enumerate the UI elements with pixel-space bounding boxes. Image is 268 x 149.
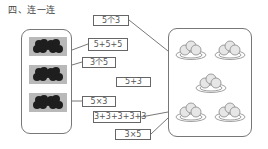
- grapes-icon: [29, 65, 67, 84]
- expression-box-3-plus-x5[interactable]: 3+3+3+3+3: [93, 111, 141, 123]
- line-e7-to-right: [151, 118, 168, 134]
- expression-box-5-plus-5-plus-5[interactable]: 5+5+5: [88, 38, 128, 51]
- bun-plate-icon: [213, 39, 247, 61]
- grapes-panel[interactable]: [21, 29, 72, 134]
- expression-box-5-times-3[interactable]: 5×3: [82, 96, 116, 107]
- line-left-to-e2: [72, 44, 88, 50]
- expression-box-5-ge-3[interactable]: 5个3: [93, 15, 129, 26]
- bun-plate-icon: [174, 101, 208, 123]
- plates-panel[interactable]: [168, 28, 252, 137]
- grapes-icon: [29, 37, 67, 56]
- expression-box-3-times-5[interactable]: 3×5: [115, 129, 151, 140]
- line-e1-to-right: [129, 20, 168, 51]
- grapes-icon: [29, 93, 67, 112]
- bun-plate-icon: [174, 39, 208, 61]
- expression-box-3-ge-5[interactable]: 3个5: [82, 57, 116, 68]
- expression-box-5-plus-3[interactable]: 5+3: [116, 77, 151, 87]
- line-left-to-e3: [72, 62, 82, 65]
- bun-plate-icon: [194, 72, 228, 94]
- bun-plate-icon: [213, 101, 247, 123]
